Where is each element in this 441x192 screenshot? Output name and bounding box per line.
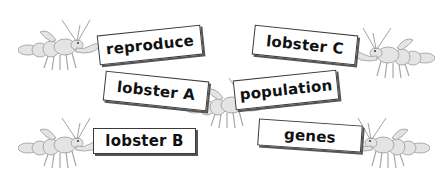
- card-lobster-a: lobster A: [103, 71, 210, 112]
- card-label: reproduce: [105, 31, 195, 58]
- card-lobster-c: lobster C: [252, 25, 359, 66]
- card-label: lobster B: [105, 132, 183, 150]
- card-label: lobster C: [265, 32, 344, 58]
- card-population: population: [233, 70, 340, 111]
- lobster-illustration-top-right: [345, 28, 435, 88]
- card-label: lobster A: [116, 78, 196, 104]
- card-label: population: [239, 76, 333, 104]
- card-label: genes: [284, 125, 337, 147]
- lobster-illustration-top-left: [18, 20, 108, 80]
- card-lobster-b: lobster B: [93, 128, 196, 154]
- card-reproduce: reproduce: [97, 25, 204, 66]
